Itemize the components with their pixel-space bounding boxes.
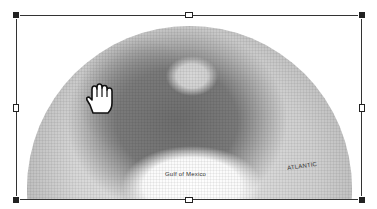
resize-handle-top-right[interactable] (358, 11, 366, 19)
hand-grab-icon (86, 83, 114, 115)
resize-handle-middle-right[interactable] (359, 104, 365, 112)
resize-handle-top-center[interactable] (185, 12, 193, 18)
selection-frame (16, 15, 362, 200)
resize-handle-bottom-left[interactable] (12, 196, 20, 204)
resize-handle-top-left[interactable] (12, 11, 20, 19)
canvas: Gulf of Mexico ATLANTIC (0, 0, 377, 209)
resize-handle-bottom-center[interactable] (185, 197, 193, 203)
resize-handle-bottom-right[interactable] (358, 196, 366, 204)
resize-handle-middle-left[interactable] (13, 104, 19, 112)
